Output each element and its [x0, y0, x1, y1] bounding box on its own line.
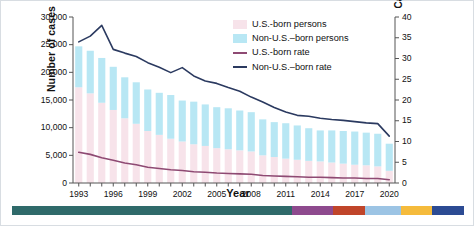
bar-segment-us-born: [121, 118, 128, 183]
bar-segment-non-us-born: [363, 133, 370, 166]
bar-segment-us-born: [156, 135, 163, 183]
bar-segment-non-us-born: [87, 51, 94, 94]
y-axis-left-tick-label: 20,000: [15, 67, 67, 77]
bar-segment-non-us-born: [156, 93, 163, 135]
bar-segment-us-born: [351, 165, 358, 183]
bar-segment-non-us-born: [340, 131, 347, 164]
chart-legend: U.S.-born personsNon-U.S.–born personsU.…: [233, 19, 349, 73]
bar-segment-non-us-born: [351, 132, 358, 165]
bar-segment-non-us-born: [133, 82, 140, 124]
legend-item-label: U.S.-born rate: [252, 47, 310, 58]
bar-segment-non-us-born: [98, 58, 105, 103]
y-axis-left-tick-label: 5,000: [15, 150, 67, 160]
legend-item: Non-U.S.–born persons: [233, 33, 349, 44]
bar-segment-us-born: [248, 151, 255, 183]
y-axis-left-tick-label: 10,000: [15, 122, 67, 132]
ribbon-segment: [401, 206, 433, 215]
legend-line-icon: [233, 52, 247, 54]
bar-segment-us-born: [236, 150, 243, 183]
bar-segment-us-born: [87, 93, 94, 183]
bar-segment-non-us-born: [259, 119, 266, 155]
bar-segment-non-us-born: [386, 144, 393, 171]
ribbon-segment: [333, 206, 365, 215]
bar-segment-us-born: [167, 139, 174, 183]
ribbon-segment: [432, 206, 464, 215]
ribbon-segment: [292, 206, 333, 215]
bar-segment-non-us-born: [282, 123, 289, 158]
y-axis-right-tick-label: 0: [402, 178, 428, 188]
bar-segment-us-born: [144, 131, 151, 183]
y-axis-right-tick-label: 40: [402, 12, 428, 22]
legend-line-icon: [233, 66, 247, 68]
bar-segment-non-us-born: [305, 128, 312, 161]
y-axis-right-tick-label: 35: [402, 32, 428, 42]
bar-segment-us-born: [202, 146, 209, 183]
bar-segment-us-born: [179, 142, 186, 184]
bar-segment-us-born: [225, 149, 232, 183]
bar-segment-non-us-born: [225, 108, 232, 149]
ribbon-segment: [365, 206, 401, 215]
legend-item-label: U.S.-born persons: [252, 19, 327, 30]
bar-segment-non-us-born: [202, 104, 209, 145]
bar-segment-us-born: [271, 157, 278, 183]
bar-segment-non-us-born: [75, 46, 82, 87]
y-axis-right-tick-label: 25: [402, 74, 428, 84]
bar-segment-non-us-born: [236, 111, 243, 151]
bar-segment-non-us-born: [294, 125, 301, 159]
x-axis-tick-label: 2002: [164, 189, 200, 199]
bar-segment-non-us-born: [179, 101, 186, 142]
bar-segment-us-born: [259, 155, 266, 183]
bar-segment-non-us-born: [374, 134, 381, 167]
bar-segment-us-born: [190, 144, 197, 183]
x-axis-tick-label: 2014: [302, 189, 338, 199]
bar-segment-non-us-born: [144, 89, 151, 130]
x-axis-tick-label: 2011: [268, 189, 304, 199]
bar-segment-us-born: [305, 161, 312, 183]
y-axis-left-tick-label: 25,000: [15, 39, 67, 49]
ribbon-segment: [12, 206, 292, 215]
y-axis-right-tick-label: 30: [402, 53, 428, 63]
bar-segment-us-born: [213, 148, 220, 183]
bar-segment-non-us-born: [167, 95, 174, 139]
bar-segment-non-us-born: [248, 112, 255, 151]
y-axis-right-tick-label: 15: [402, 115, 428, 125]
bar-segment-us-born: [110, 110, 117, 183]
x-axis-tick-label: 1993: [61, 189, 97, 199]
x-axis-tick-label: 2017: [337, 189, 373, 199]
bar-segment-us-born: [282, 159, 289, 183]
bar-segment-non-us-born: [110, 67, 117, 110]
legend-item-label: Non-U.S.–born rate: [252, 62, 332, 73]
legend-item: Non-U.S.–born rate: [233, 62, 349, 73]
bar-segment-us-born: [317, 161, 324, 183]
y-axis-left-tick-label: 30,000: [15, 12, 67, 22]
bar-segment-non-us-born: [271, 122, 278, 157]
y-axis-right-tick-label: 10: [402, 136, 428, 146]
legend-item-label: Non-U.S.–born persons: [252, 33, 349, 44]
bar-segment-non-us-born: [328, 130, 335, 162]
decorative-color-ribbon: [12, 206, 464, 215]
y-axis-right-tick-label: 20: [402, 95, 428, 105]
x-axis-tick-label: 1999: [130, 189, 166, 199]
x-axis-tick-label: 1996: [95, 189, 131, 199]
bar-segment-non-us-born: [190, 102, 197, 145]
y-axis-left-tick-label: 15,000: [15, 95, 67, 105]
bar-segment-non-us-born: [121, 77, 128, 118]
bar-segment-us-born: [374, 166, 381, 183]
bar-segment-non-us-born: [317, 130, 324, 161]
bar-segment-us-born: [294, 160, 301, 183]
bar-segment-us-born: [340, 164, 347, 183]
chart-figure: Number of cases Cases per 100,000 person…: [0, 0, 474, 226]
legend-item: U.S.-born rate: [233, 47, 349, 58]
bar-segment-us-born: [328, 163, 335, 183]
bar-segment-us-born: [363, 165, 370, 183]
legend-item: U.S.-born persons: [233, 19, 349, 30]
bar-segment-non-us-born: [213, 107, 220, 148]
y-axis-right-tick-label: 5: [402, 157, 428, 167]
bar-segment-us-born: [98, 103, 105, 183]
x-axis-tick-label: 2020: [371, 189, 407, 199]
bar-segment-us-born: [133, 124, 140, 183]
bar-segment-us-born: [386, 171, 393, 183]
legend-swatch-icon: [233, 34, 247, 43]
bar-segment-us-born: [75, 87, 82, 183]
x-axis-tick-label: 2005: [199, 189, 235, 199]
